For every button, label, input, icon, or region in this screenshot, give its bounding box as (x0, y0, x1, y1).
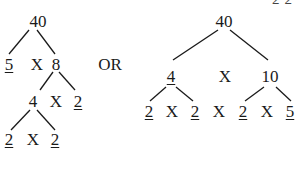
left-l3-op: X (27, 131, 39, 149)
right-l2-b: 2 (191, 103, 200, 121)
right-l2-op2: X (213, 103, 225, 121)
right-l2-c: 2 (239, 103, 248, 121)
left-l3-right: 2 (51, 131, 60, 149)
or-separator: OR (98, 56, 122, 74)
left-l1-right: 8 (52, 56, 61, 74)
right-l2-op3: X (261, 103, 273, 121)
right-l1-left: 4 (167, 68, 176, 86)
right-root: 40 (216, 13, 233, 31)
left-l3-left: 2 (5, 131, 14, 149)
left-root: 40 (30, 13, 47, 31)
left-l2-left: 4 (29, 93, 38, 111)
right-l1-right: 10 (262, 68, 279, 86)
right-l2-d: 5 (286, 103, 295, 121)
left-l1-op: X (31, 56, 43, 74)
left-l1-left: 5 (5, 56, 14, 74)
left-l2-right: 2 (74, 93, 83, 111)
right-l2-op1: X (166, 103, 178, 121)
right-l2-a: 2 (145, 103, 154, 121)
right-l1-op: X (219, 68, 231, 86)
left-l2-op: X (50, 93, 62, 111)
